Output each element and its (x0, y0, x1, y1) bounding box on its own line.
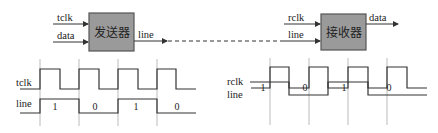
sender-input-data: data (53, 30, 88, 42)
right-clock-label: rclk (227, 76, 244, 87)
right-timing-diagram: rclk line 1 0 1 0 (227, 58, 427, 125)
data-input-label: data (57, 30, 75, 41)
left-line-label: line (16, 98, 32, 109)
tclk-line-waveform (20, 99, 196, 113)
receiver-input-rclk: rclk (284, 12, 320, 24)
right-bit-0: 1 (261, 82, 266, 93)
data-output-label: data (369, 12, 387, 23)
right-line-label: line (227, 89, 243, 100)
line-input-label: line (288, 29, 304, 40)
line-output-label: line (138, 29, 154, 40)
tclk-waveform (20, 69, 196, 89)
left-bit-2: 1 (134, 101, 139, 112)
left-bit-0: 1 (53, 101, 58, 112)
sender-block: 发送器 (89, 13, 134, 51)
rclk-input-label: rclk (288, 12, 305, 23)
receiver-output-data: data (366, 12, 398, 24)
right-bit-3: 0 (387, 82, 392, 93)
right-bit-2: 1 (342, 82, 347, 93)
sender-output-line: line (134, 29, 167, 41)
rclk-waveform (251, 67, 427, 88)
left-timing-diagram: tclk line 1 0 1 0 (16, 59, 196, 126)
sender-label: 发送器 (94, 25, 130, 40)
left-clock-label: tclk (16, 77, 32, 88)
left-bit-3: 0 (175, 101, 180, 112)
receiver-label: 接收器 (326, 25, 362, 40)
serial-transmission-diagram: 发送器 tclk data line 接收器 rclk line data (0, 0, 438, 133)
right-bit-1: 0 (303, 82, 308, 93)
tclk-input-label: tclk (57, 12, 73, 23)
receiver-block: 接收器 (321, 14, 366, 50)
left-bit-1: 0 (93, 101, 98, 112)
receiver-input-line: line (284, 29, 320, 41)
sender-input-tclk: tclk (53, 12, 88, 24)
